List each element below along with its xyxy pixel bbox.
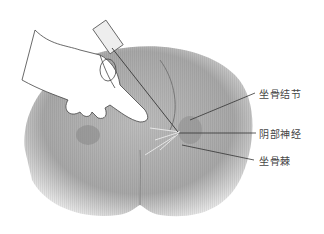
label-pudendal-nerve: 阴部神经 bbox=[259, 126, 301, 141]
label-ischial-spine: 坐骨棘 bbox=[259, 153, 291, 168]
leader-lines bbox=[0, 0, 324, 234]
label-ischial-tuberosity: 坐骨结节 bbox=[259, 86, 301, 101]
illustration: 坐骨结节 阴部神经 坐骨棘 bbox=[0, 0, 324, 234]
